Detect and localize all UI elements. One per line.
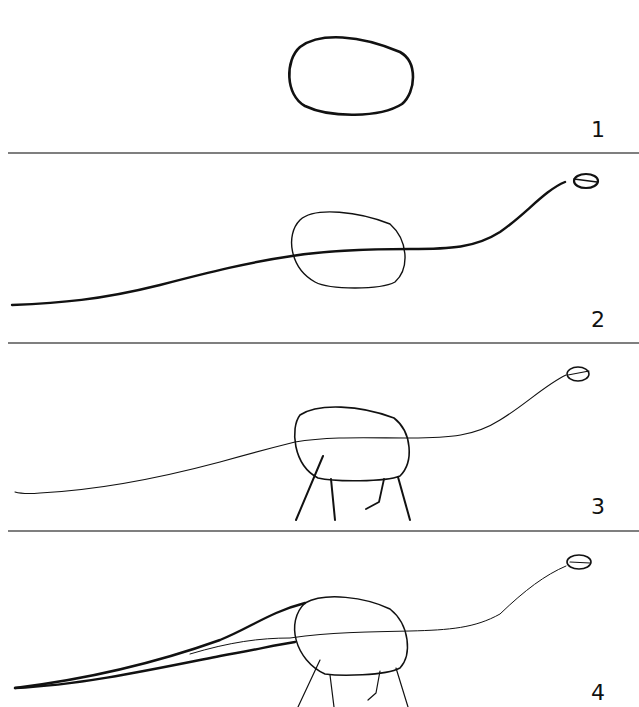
leg-back-left <box>366 479 384 509</box>
leg-front-left <box>296 456 323 520</box>
step-number-3: 3 <box>591 494 605 519</box>
leg-front-right <box>331 479 335 520</box>
step-3-panel: 3 <box>15 367 605 520</box>
step-number-1: 1 <box>591 117 605 142</box>
step-1-panel: 1 <box>289 37 605 142</box>
step-number-4: 4 <box>591 680 605 705</box>
tail-top-outline <box>15 603 305 688</box>
body-oval <box>295 597 408 675</box>
step-4-panel: 4 <box>15 555 605 707</box>
leg-back-right <box>398 477 410 520</box>
leg-back-right <box>396 668 408 707</box>
neck-tail-line <box>190 566 566 654</box>
leg-front-right <box>330 675 334 707</box>
dinosaur-drawing-steps: 1 2 3 4 <box>0 0 639 707</box>
leg-back-left <box>368 671 380 700</box>
leg-front-left <box>298 660 320 707</box>
neck-tail-line <box>15 375 566 494</box>
step-number-2: 2 <box>591 307 605 332</box>
body-oval <box>289 37 413 114</box>
mouth-line <box>574 179 597 182</box>
body-oval <box>295 407 410 481</box>
step-2-panel: 2 <box>12 174 605 332</box>
neck-tail-line <box>12 182 565 305</box>
mouth-line <box>568 371 589 375</box>
mouth-line <box>570 562 590 563</box>
